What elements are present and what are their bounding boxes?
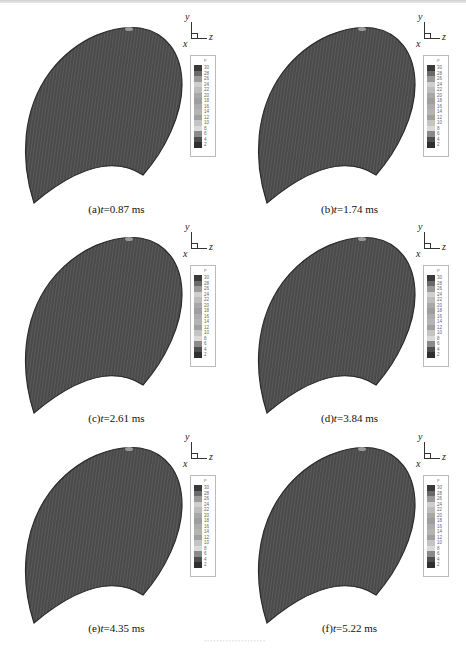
axis-z-line xyxy=(191,248,207,249)
legend-tick: 2 xyxy=(204,142,209,148)
legend-tick: 30 xyxy=(204,65,209,71)
legend-title: P xyxy=(204,58,207,63)
legend-tick: 18 xyxy=(437,518,442,524)
legend-tick: 22 xyxy=(204,507,209,513)
legend-tick: 22 xyxy=(437,507,442,513)
axis-triad: y z x xyxy=(418,13,458,53)
caption-value: =5.22 ms xyxy=(336,622,377,634)
legend-tick: 30 xyxy=(437,275,442,281)
axis-label-z: z xyxy=(209,31,213,42)
figure-panel-f: y z x P 30282624222018161412108642 xyxy=(233,420,466,630)
axis-triad: y z x xyxy=(418,433,458,473)
axis-label-x: x xyxy=(183,248,187,259)
caption-value: =4.35 ms xyxy=(104,622,145,634)
legend-color-bands xyxy=(427,65,435,148)
legend-tick: 18 xyxy=(204,308,209,314)
pressure-legend: P 30282624222018161412108642 xyxy=(190,55,216,157)
axis-label-x: x xyxy=(416,458,420,469)
legend-tick: 14 xyxy=(437,529,442,535)
legend-title: P xyxy=(437,58,440,63)
axis-z-line xyxy=(424,248,440,249)
legend-tick: 2 xyxy=(204,352,209,358)
legend-tick: 30 xyxy=(204,485,209,491)
legend-tick: 2 xyxy=(204,562,209,568)
caption-prefix: (f) xyxy=(322,622,333,634)
axis-label-y: y xyxy=(185,431,189,442)
axis-label-z: z xyxy=(209,451,213,462)
legend-tick: 26 xyxy=(204,76,209,82)
legend-color-bands xyxy=(427,275,435,358)
legend-band xyxy=(427,142,435,148)
legend-tick: 30 xyxy=(437,65,442,71)
legend-tick-labels: 30282624222018161412108642 xyxy=(437,275,442,358)
legend-tick: 26 xyxy=(437,76,442,82)
legend-tick-labels: 30282624222018161412108642 xyxy=(437,65,442,148)
axis-triad: y z x xyxy=(185,433,225,473)
legend-title: P xyxy=(204,478,207,483)
legend-tick: 2 xyxy=(437,562,442,568)
legend-tick: 30 xyxy=(437,485,442,491)
legend-tick: 10 xyxy=(204,330,209,336)
legend-tick: 22 xyxy=(204,297,209,303)
axis-label-x: x xyxy=(416,38,420,49)
figure-panel-b: y z x P 30282624222018161412108642 xyxy=(233,0,466,210)
legend-tick-labels: 30282624222018161412108642 xyxy=(204,485,209,568)
legend-tick-labels: 30282624222018161412108642 xyxy=(204,275,209,358)
caption-prefix: (e) xyxy=(88,622,100,634)
legend-tick: 10 xyxy=(437,120,442,126)
legend-tick: 22 xyxy=(204,87,209,93)
axis-label-z: z xyxy=(442,451,446,462)
axis-triad: y z x xyxy=(185,13,225,53)
legend-tick: 22 xyxy=(437,87,442,93)
pressure-legend: P 30282624222018161412108642 xyxy=(423,55,449,157)
figure-panel-d: y z x P 30282624222018161412108642 xyxy=(233,210,466,420)
pressure-legend: P 30282624222018161412108642 xyxy=(190,475,216,577)
axis-label-y: y xyxy=(185,221,189,232)
figure-panel-c: y z x P 30282624222018161412108642 xyxy=(0,210,233,420)
legend-tick: 18 xyxy=(437,98,442,104)
legend-band xyxy=(427,352,435,358)
legend-tick-labels: 30282624222018161412108642 xyxy=(204,65,209,148)
axis-triad: y z x xyxy=(418,223,458,263)
legend-tick: 10 xyxy=(204,540,209,546)
legend-tick: 26 xyxy=(437,496,442,502)
legend-tick: 14 xyxy=(204,109,209,115)
axis-label-z: z xyxy=(442,241,446,252)
axis-label-y: y xyxy=(418,11,422,22)
axis-label-y: y xyxy=(185,11,189,22)
legend-tick: 18 xyxy=(437,308,442,314)
legend-tick: 26 xyxy=(204,286,209,292)
legend-color-bands xyxy=(427,485,435,568)
legend-band xyxy=(427,562,435,568)
figure-panel-a: y z x P 30282624222018161412108642 xyxy=(0,0,233,210)
panel-caption-f: (f)t=5.22 ms xyxy=(233,622,466,634)
legend-color-bands xyxy=(194,65,202,148)
axis-z-line xyxy=(424,38,440,39)
legend-tick: 2 xyxy=(437,352,442,358)
legend-tick: 14 xyxy=(437,319,442,325)
legend-band xyxy=(194,562,202,568)
pressure-legend: P 30282624222018161412108642 xyxy=(423,265,449,367)
legend-tick: 10 xyxy=(437,540,442,546)
pressure-legend: P 30282624222018161412108642 xyxy=(423,475,449,577)
figure-caption-faint: •••••••••••••••••••• xyxy=(140,638,330,644)
legend-title: P xyxy=(437,268,440,273)
legend-tick: 18 xyxy=(204,518,209,524)
legend-tick: 14 xyxy=(437,109,442,115)
panel-caption-e: (e)t=4.35 ms xyxy=(0,622,233,634)
legend-tick: 14 xyxy=(204,319,209,325)
legend-title: P xyxy=(437,478,440,483)
legend-title: P xyxy=(204,268,207,273)
axis-z-line xyxy=(191,458,207,459)
legend-band xyxy=(194,142,202,148)
axis-label-z: z xyxy=(209,241,213,252)
legend-band xyxy=(194,352,202,358)
legend-tick: 10 xyxy=(204,120,209,126)
legend-tick: 22 xyxy=(437,297,442,303)
legend-tick: 2 xyxy=(437,142,442,148)
legend-color-bands xyxy=(194,275,202,358)
legend-tick: 18 xyxy=(204,98,209,104)
axis-label-x: x xyxy=(183,458,187,469)
legend-color-bands xyxy=(194,485,202,568)
legend-tick-labels: 30282624222018161412108642 xyxy=(437,485,442,568)
